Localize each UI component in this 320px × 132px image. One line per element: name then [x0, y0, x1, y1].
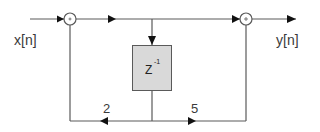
gain-right-label: 5	[191, 102, 198, 115]
arrow-output-icon	[287, 15, 296, 23]
delay-exponent: -1	[154, 58, 160, 65]
arrow-right-gain-icon	[188, 117, 196, 125]
arrow-into-summer-2-icon	[232, 15, 240, 23]
arrow-into-delay-icon	[148, 36, 156, 45]
delay-label: Z	[145, 63, 152, 77]
gain-left-label: 2	[103, 102, 110, 115]
arrow-left-gain-icon	[100, 117, 108, 125]
arrow-forward-icon	[108, 15, 116, 23]
arrow-into-summer-1-icon	[57, 16, 64, 23]
input-label: x[n]	[14, 33, 37, 47]
output-label: y[n]	[276, 33, 299, 47]
